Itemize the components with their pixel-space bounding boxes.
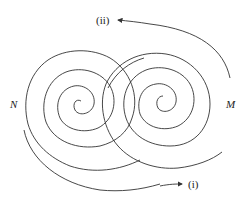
arrow-ii xyxy=(118,20,230,78)
spiral-diagram: (ii) (i) N M xyxy=(0,0,246,216)
label-i: (i) xyxy=(188,178,199,191)
arrow-i xyxy=(160,184,182,186)
left-spiral xyxy=(24,51,160,191)
right-spiral xyxy=(102,53,222,168)
label-ii: (ii) xyxy=(96,14,110,27)
label-m: M xyxy=(225,98,236,110)
label-n: N xyxy=(9,98,18,110)
